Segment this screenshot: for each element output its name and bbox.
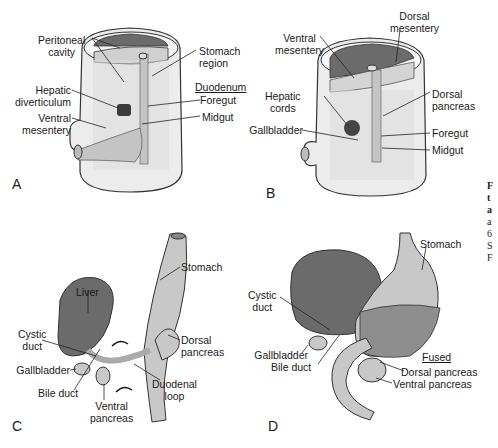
label-line: region — [199, 57, 240, 69]
label-line: pancreas — [181, 346, 224, 358]
label-dorsal-pancreas-d: Dorsal pancreas — [401, 366, 477, 378]
label-line: Cystic — [18, 328, 47, 340]
label-line: Ventral — [22, 112, 71, 124]
label-stomach-c: Stomach — [181, 261, 222, 273]
label-stomach-d: Stomach — [420, 238, 461, 250]
label-line: Dorsal — [390, 10, 439, 22]
caption-fragment: F — [487, 252, 493, 264]
label-ventral-pancreas-c: Ventral pancreas — [90, 400, 133, 424]
label-dorsal-pancreas-c: Dorsal pancreas — [181, 334, 224, 358]
caption-fragment: S — [487, 240, 493, 252]
label-ventral-pancreas-d: Ventral pancreas — [393, 378, 472, 390]
label-dorsal-mesentery: Dorsal mesentery — [390, 10, 439, 34]
label-line: duct — [248, 301, 277, 313]
label-stomach-region: Stomach region — [199, 45, 240, 69]
label-gallbladder-b: Gallbladder — [249, 124, 303, 136]
label-hepatic-cords: Hepatic cords — [265, 90, 301, 114]
label-duodenum: Duodenum — [195, 81, 246, 93]
label-gallbladder-d: Gallbladder — [254, 349, 308, 361]
label-line: pancreas — [432, 100, 475, 112]
label-line: Dorsal — [432, 88, 475, 100]
label-line: Stomach — [199, 45, 240, 57]
label-bile-duct-c: Bile duct — [38, 387, 78, 399]
label-ventral-mesentery-b: Ventral mesentery — [275, 32, 324, 56]
label-line: cavity — [38, 46, 85, 58]
label-cystic-duct-d: Cystic duct — [248, 289, 277, 313]
panel-a-drawing — [70, 28, 182, 192]
label-line: Ventral — [275, 32, 324, 44]
caption-fragment: a — [487, 216, 491, 228]
label-gallbladder-c: Gallbladder — [16, 364, 70, 376]
label-duodenal-loop: Duodenal loop — [152, 378, 197, 402]
caption-fragment: F — [487, 180, 493, 192]
label-line: loop — [152, 390, 197, 402]
label-hepatic-diverticulum: Hepatic diverticulum — [15, 84, 71, 108]
label-ventral-mesentery-a: Ventral mesentery — [22, 112, 71, 136]
panel-letter-b: B — [266, 185, 275, 201]
label-line: mesentery — [275, 44, 324, 56]
panel-letter-a: A — [12, 176, 21, 192]
label-line: pancreas — [90, 412, 133, 424]
label-line: mesentery — [390, 22, 439, 34]
label-line: Cystic — [248, 289, 277, 301]
label-line: Dorsal — [181, 334, 224, 346]
caption-fragment: t — [487, 192, 490, 204]
panel-d-drawing — [291, 233, 440, 420]
label-line: Ventral — [90, 400, 133, 412]
label-line: duct — [18, 340, 47, 352]
panel-letter-c: C — [12, 418, 22, 434]
panel-b-drawing — [301, 38, 426, 196]
label-midgut-b: Midgut — [432, 144, 464, 156]
label-fused: Fused — [422, 351, 451, 363]
label-bile-duct-d: Bile duct — [271, 361, 311, 373]
label-dorsal-pancreas-b: Dorsal pancreas — [432, 88, 475, 112]
label-line: Duodenal — [152, 378, 197, 390]
label-cystic-duct-c: Cystic duct — [18, 328, 47, 352]
caption-fragment: a — [487, 204, 492, 216]
label-line: mesentery — [22, 124, 71, 136]
label-line: diverticulum — [15, 96, 71, 108]
caption-fragment: 6 — [487, 228, 492, 240]
label-peritoneal-cavity: Peritoneal cavity — [38, 34, 85, 58]
label-liver: Liver — [76, 286, 99, 298]
label-foregut-b: Foregut — [432, 127, 468, 139]
panel-letter-d: D — [268, 418, 278, 434]
label-line: Hepatic — [15, 84, 71, 96]
label-line: Peritoneal — [38, 34, 85, 46]
label-midgut-a: Midgut — [202, 111, 234, 123]
label-line: Hepatic — [265, 90, 301, 102]
label-foregut-a: Foregut — [200, 94, 236, 106]
label-line: cords — [265, 102, 301, 114]
